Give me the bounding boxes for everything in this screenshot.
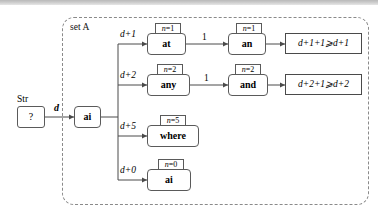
branch-2-result: d+2+1⩾d+2 <box>285 74 362 95</box>
branch-2-edge-label: d+2 <box>120 71 136 81</box>
input-caption: Str <box>17 94 28 104</box>
input-edge-label: d <box>54 103 59 113</box>
branch-1-result: d+1+1⩾d+1 <box>285 33 362 54</box>
branch-2-next-edge-label: 1 <box>204 74 209 84</box>
branch-3-tag: n=5 <box>160 115 186 126</box>
branch-2-tag: n=2 <box>157 64 183 75</box>
branch-1-next-edge-label: 1 <box>202 33 207 43</box>
branch-4-node: ai <box>147 169 191 191</box>
branch-2-next-node-label: and <box>240 80 256 90</box>
branch-2-next-tag: n=2 <box>235 64 261 75</box>
branch-4-edge-label: d+0 <box>120 166 136 176</box>
branch-3-node: where <box>147 125 199 147</box>
pivot-node-ai: ai <box>74 106 101 128</box>
input-node: ? <box>17 106 45 128</box>
branch-1-next-tag: n=1 <box>236 23 262 34</box>
branch-1-next-node: an <box>228 33 266 55</box>
branch-2-node: any <box>147 74 190 96</box>
branch-1-next-node-label: an <box>242 39 253 49</box>
pivot-node-label: ai <box>84 112 92 122</box>
set-a-label: set A <box>70 22 89 32</box>
input-node-value: ? <box>29 112 33 122</box>
branch-2-node-label: any <box>161 80 177 90</box>
branch-1-edge-label: d+1 <box>120 30 136 40</box>
branch-1-tag: n=1 <box>155 23 181 34</box>
branch-3-edge-label: d+5 <box>120 122 136 132</box>
diagram-canvas: set A Str ? d ai d+1 n=1 at 1 n=1 an d+1… <box>0 0 378 218</box>
branch-2-next-node: and <box>228 74 268 96</box>
branch-4-node-label: ai <box>165 175 173 185</box>
branch-2-result-text: d+2+1⩾d+2 <box>298 80 349 90</box>
branch-1-node-label: at <box>162 39 170 49</box>
branch-3-node-label: where <box>160 131 186 141</box>
branch-4-tag: n=0 <box>158 159 184 170</box>
branch-1-result-text: d+1+1⩾d+1 <box>298 39 349 49</box>
branch-1-node: at <box>147 33 186 55</box>
